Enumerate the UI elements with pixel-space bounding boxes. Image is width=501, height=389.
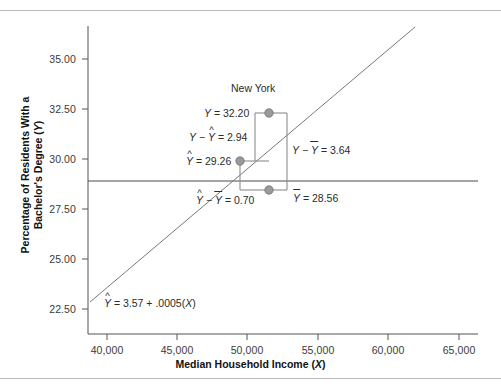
- regression-variable-yhat: ^Y: [104, 297, 111, 309]
- explained-variable-yhat: ^Y: [196, 194, 203, 206]
- data-point-mean-reference: [265, 186, 273, 194]
- x-tick-label-65000: 65,000: [432, 344, 486, 356]
- bar-accent-icon: [311, 141, 319, 142]
- annotation-total-deviation: Y − Y = 3.64: [292, 144, 350, 156]
- bar-accent-icon: [215, 191, 223, 192]
- x-tick-label-40000: 40,000: [80, 344, 134, 356]
- annotation-mean-value: Y = 28.56: [293, 192, 338, 204]
- annotation-observed-value: Y = 32.20: [204, 107, 249, 119]
- total-minus-sign: −: [299, 144, 311, 156]
- regression-decomposition-figure: 35.00 32.50 30.00 27.50 25.00 22.50 40,0…: [0, 0, 501, 389]
- x-tick-label-55000: 55,000: [291, 344, 345, 356]
- x-axis-title-variable: X: [315, 358, 322, 370]
- explained-ybar-letter: Y: [215, 194, 222, 206]
- regression-equation-paren: ): [192, 297, 196, 309]
- y-axis-title-variable: Y: [32, 124, 44, 131]
- observed-value: = 32.20: [211, 107, 249, 119]
- mean-variable-ybar: Y: [293, 192, 300, 204]
- x-tick-label-60000: 60,000: [361, 344, 415, 356]
- y-axis-title-paren: ): [32, 121, 44, 125]
- x-axis-title: Median Household Income (X): [0, 358, 501, 370]
- bar-accent-icon: [293, 189, 301, 190]
- explained-variable-ybar: Y: [215, 194, 222, 206]
- total-deviation-value: = 3.64: [318, 144, 350, 156]
- y-tick-label-22-5: 22.50: [32, 303, 76, 315]
- annotation-residual: Y − ^Y = 2.94: [189, 131, 247, 143]
- regression-line: [90, 27, 415, 302]
- residual-variable-yhat: ^Y: [208, 131, 215, 143]
- mean-value: = 28.56: [300, 192, 338, 204]
- y-tick-label-35: 35.00: [32, 53, 76, 65]
- x-axis-title-text: Median Household Income (: [176, 358, 315, 370]
- observed-variable: Y: [204, 107, 211, 119]
- hat-accent-icon: ^: [197, 188, 202, 198]
- y-axis-title-line1: Percentage of Residents With a: [19, 97, 31, 254]
- x-tick-label-45000: 45,000: [150, 344, 204, 356]
- annotation-regression-equation: ^Y = 3.57 + .0005(X): [104, 297, 196, 309]
- hat-accent-icon: ^: [187, 149, 192, 159]
- x-tick-label-50000: 50,000: [220, 344, 274, 356]
- deviation-connectors: [240, 113, 287, 190]
- residual-variable-y: Y: [189, 131, 196, 143]
- mean-ybar-letter: Y: [293, 192, 300, 204]
- total-variable-ybar: Y: [311, 144, 318, 156]
- residual-value: = 2.94: [215, 131, 247, 143]
- total-variable-y: Y: [292, 144, 299, 156]
- point-label-new-york: New York: [231, 82, 275, 94]
- y-axis-title-line2: Bachelor's Degree (: [32, 131, 44, 229]
- data-point-observed-new-york: [265, 109, 273, 117]
- hat-accent-icon: ^: [105, 291, 110, 301]
- y-axis-ticks: [82, 59, 88, 309]
- annotation-explained-deviation: ^Y − Y = 0.70: [196, 194, 254, 206]
- predicted-value: = 29.26: [193, 155, 231, 167]
- hat-accent-icon: ^: [209, 125, 214, 135]
- x-axis-ticks: [107, 334, 459, 340]
- x-axis-title-paren: ): [322, 358, 326, 370]
- regression-equation-body: = 3.57 + .0005(: [111, 297, 185, 309]
- annotation-predicted-value: ^Y = 29.26: [186, 155, 231, 167]
- explained-minus-sign: −: [203, 194, 215, 206]
- predicted-variable-yhat: ^Y: [186, 155, 193, 167]
- explained-deviation-value: = 0.70: [222, 194, 254, 206]
- data-point-predicted: [236, 157, 244, 165]
- y-axis-title: Percentage of Residents With aBachelor's…: [19, 65, 45, 285]
- residual-minus-sign: −: [196, 131, 208, 143]
- total-ybar-letter: Y: [311, 144, 318, 156]
